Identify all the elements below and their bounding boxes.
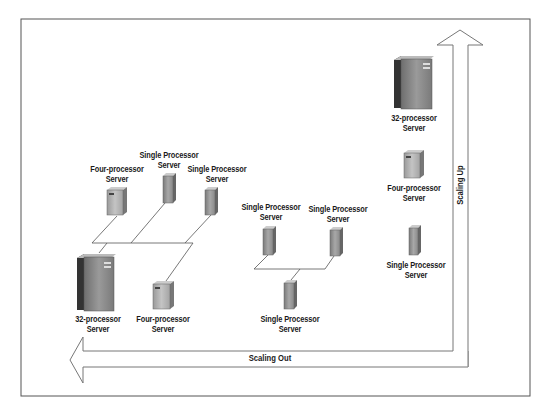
server-label: Four-processor Server	[387, 183, 440, 203]
four-processor-server-icon	[153, 281, 174, 309]
single-processor-server-icon	[284, 280, 297, 309]
server-label: 32-processor Server	[391, 113, 436, 133]
network-connectors-middle	[254, 255, 334, 280]
server-label: Single Processor Server	[387, 260, 446, 280]
four-processor-server-icon	[107, 187, 127, 215]
32-processor-server-icon	[77, 254, 116, 311]
single-processor-server-icon	[330, 227, 343, 256]
scaling-up-label: Scaling Up	[455, 165, 465, 205]
server-label: Single Processor Server	[242, 202, 301, 222]
four-processor-server-icon	[404, 150, 424, 178]
single-processor-server-icon	[163, 173, 176, 203]
32-processor-server-icon	[394, 56, 434, 109]
server-label: 32-processor Server	[75, 314, 120, 334]
server-label: Four-processor Server	[136, 314, 189, 334]
server-label: Single Processor Server	[188, 164, 247, 184]
single-processor-server-icon	[409, 225, 421, 255]
scaling-out-label: Scaling Out	[249, 353, 292, 363]
single-processor-server-icon	[263, 226, 276, 255]
single-processor-server-icon	[205, 187, 218, 215]
server-label: Single Processor Server	[309, 204, 368, 224]
server-label: Single Processor Server	[261, 314, 320, 334]
server-label: Four-processor Server	[90, 164, 143, 184]
